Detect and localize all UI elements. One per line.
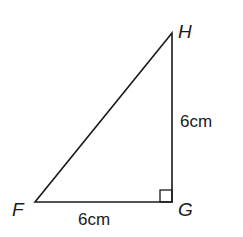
vertex-label-f: F <box>12 199 25 220</box>
right-angle-marker <box>160 190 172 202</box>
triangle-fgh <box>35 33 172 202</box>
vertex-label-h: H <box>178 21 192 42</box>
side-length-gh: 6cm <box>180 112 212 131</box>
side-length-fg: 6cm <box>78 210 110 229</box>
vertex-label-g: G <box>178 199 193 220</box>
triangle-diagram: H F G 6cm 6cm <box>0 0 243 237</box>
